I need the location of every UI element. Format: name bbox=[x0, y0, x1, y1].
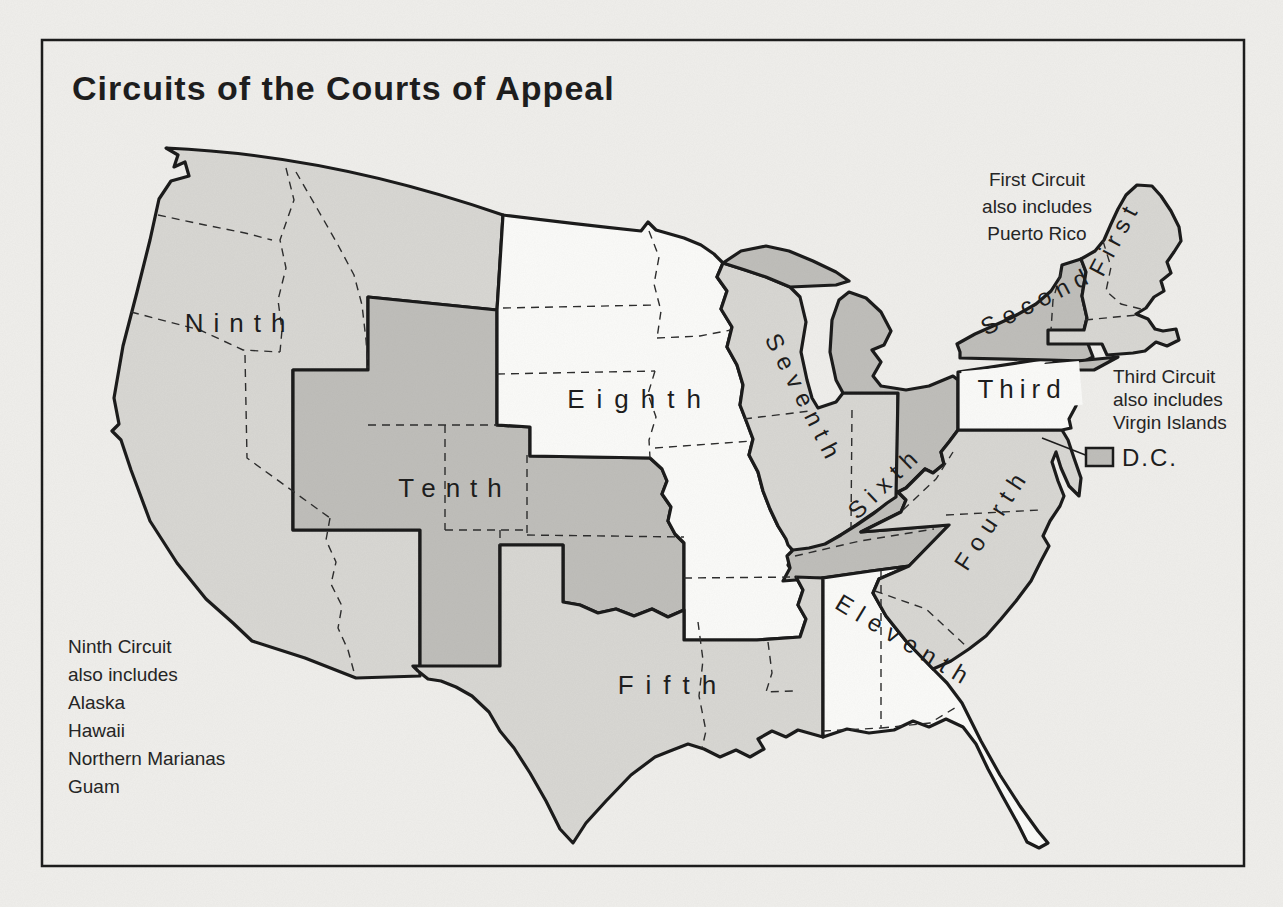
ninth-circuit-note-line-6: Guam bbox=[68, 776, 120, 797]
third-circuit-note-line-2: also includes bbox=[1113, 389, 1223, 410]
dc-swatch bbox=[1086, 448, 1113, 466]
label-fifth-circuit: Fifth bbox=[618, 670, 729, 700]
ninth-circuit-note-line-1: Ninth Circuit bbox=[68, 636, 172, 657]
ninth-circuit-note-line-5: Northern Marianas bbox=[68, 748, 225, 769]
first-circuit-note-line-2: also includes bbox=[982, 196, 1092, 217]
third-circuit-note: Third Circuit also includes Virgin Islan… bbox=[1113, 366, 1227, 433]
first-circuit-note-line-3: Puerto Rico bbox=[987, 223, 1086, 244]
label-eighth-circuit: Eighth bbox=[567, 384, 713, 414]
page-title: Circuits of the Courts of Appeal bbox=[72, 69, 615, 107]
third-circuit-note-line-1: Third Circuit bbox=[1113, 366, 1216, 387]
ninth-circuit-note-line-2: also includes bbox=[68, 664, 178, 685]
third-circuit-note-line-3: Virgin Islands bbox=[1113, 412, 1227, 433]
ninth-circuit-note-line-4: Hawaii bbox=[68, 720, 125, 741]
first-circuit-note-line-1: First Circuit bbox=[989, 169, 1086, 190]
label-ninth-circuit: Ninth bbox=[185, 308, 296, 338]
page: { "title": "Circuits of the Courts of Ap… bbox=[0, 0, 1283, 907]
first-circuit-note: First Circuit also includes Puerto Rico bbox=[982, 169, 1092, 244]
label-tenth-circuit: Tenth bbox=[398, 473, 512, 503]
dc-label: D.C. bbox=[1122, 444, 1178, 471]
label-third-circuit: Third bbox=[977, 374, 1066, 404]
circuits-map: D.C. Ninth Tenth Eighth Fifth Seventh Si… bbox=[0, 0, 1283, 907]
ninth-circuit-note-line-3: Alaska bbox=[68, 692, 125, 713]
